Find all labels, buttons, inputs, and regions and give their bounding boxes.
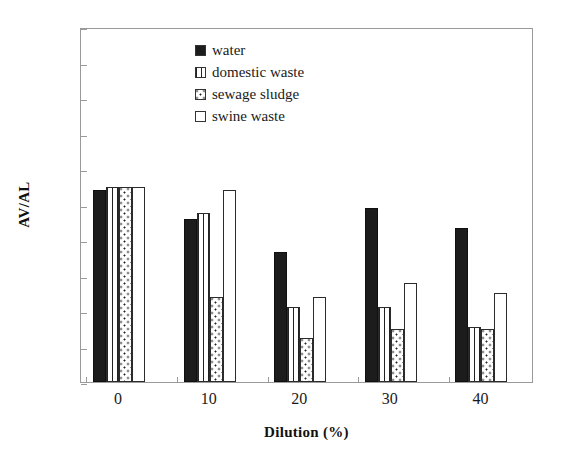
x-axis-tick [86,377,87,382]
x-axis-tick [449,377,450,382]
y-axis-tick [81,65,87,66]
bar-swine-waste-0 [132,187,145,382]
y-axis-tick [81,136,87,137]
y-axis-tick [81,313,87,314]
legend-swatch-icon [195,45,206,56]
bar-sewage-sludge-10 [210,297,223,382]
x-axis-tick [268,377,269,382]
bar-domestic-waste-0 [106,187,119,382]
bar-water-10 [184,219,197,382]
x-axis-tick-label: 30 [360,390,420,408]
bar-water-0 [93,190,106,382]
bar-sewage-sludge-20 [300,338,313,382]
y-axis-tick [81,384,87,385]
chart-legend: waterdomestic wastesewage sludgeswine wa… [195,40,365,128]
bar-swine-waste-40 [494,293,507,382]
y-axis-title: AV/AL [16,155,33,255]
y-axis-tick [81,242,87,243]
y-axis-tick [81,29,87,30]
legend-item-water: water [195,40,365,61]
x-axis-tick-label: 40 [450,390,510,408]
y-axis-tick [81,207,87,208]
legend-label: swine waste [212,109,285,124]
legend-item-sewage-sludge: sewage sludge [195,84,365,105]
y-axis-tick [81,100,87,101]
bar-domestic-waste-20 [287,307,300,382]
bar-water-20 [274,252,287,382]
legend-swatch-icon [195,67,206,78]
legend-label: sewage sludge [212,87,299,102]
bar-sewage-sludge-0 [119,187,132,382]
bar-water-30 [365,208,378,382]
chart-figure: AV/AL 012345678910 010203040 Dilution (%… [0,0,564,457]
bar-swine-waste-30 [404,283,417,382]
bar-water-40 [455,228,468,382]
legend-swatch-icon [195,89,206,100]
legend-item-swine-waste: swine waste [195,106,365,127]
bar-sewage-sludge-30 [391,329,404,382]
x-axis-tick-label: 20 [269,390,329,408]
x-axis-tick-label: 0 [88,390,148,408]
y-axis-tick [81,349,87,350]
x-axis-tick [358,377,359,382]
y-axis-tick [81,278,87,279]
y-axis-tick [81,171,87,172]
x-axis-title: Dilution (%) [80,424,533,441]
bar-swine-waste-10 [223,190,236,382]
bar-swine-waste-20 [313,297,326,382]
x-axis-tick-label: 10 [179,390,239,408]
x-axis-tick [177,377,178,382]
bar-domestic-waste-40 [468,327,481,382]
legend-label: domestic waste [212,65,304,80]
bar-domestic-waste-30 [378,307,391,382]
legend-swatch-icon [195,111,206,122]
legend-item-domestic-waste: domestic waste [195,62,365,83]
bar-sewage-sludge-40 [481,329,494,382]
bar-domestic-waste-10 [197,213,210,382]
legend-label: water [212,43,245,58]
